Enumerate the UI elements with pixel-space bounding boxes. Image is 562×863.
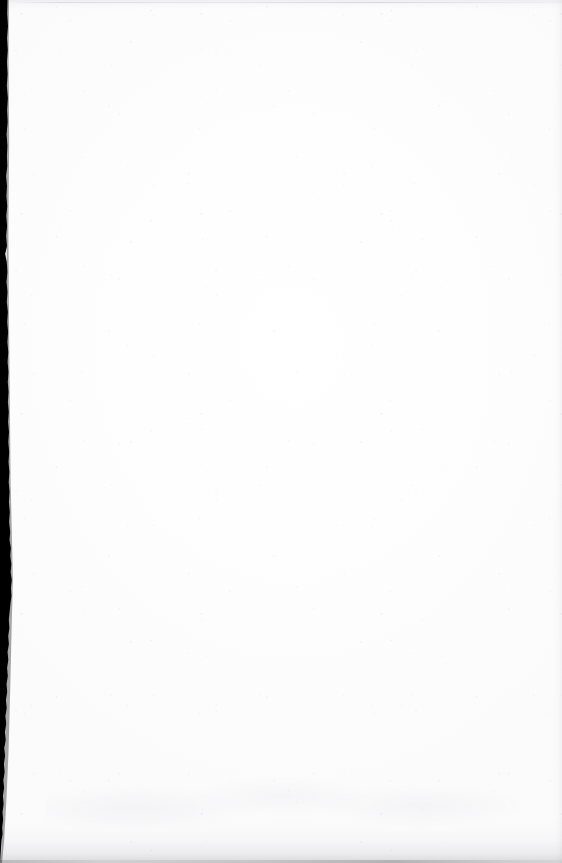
page-content-area	[34, 40, 536, 809]
scanned-page	[0, 0, 562, 863]
bottom-edge-shadow	[0, 817, 562, 863]
top-scanner-hairline	[14, 2, 562, 3]
right-edge-shadow	[552, 0, 562, 863]
